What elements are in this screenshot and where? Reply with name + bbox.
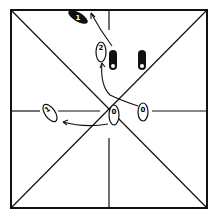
dance-floor-diagram: 0 0 1 2 1 (0, 0, 214, 217)
svg-text:1: 1 (76, 14, 81, 22)
footprint-outline-0-center: 0 (109, 105, 119, 125)
svg-text:2: 2 (99, 44, 104, 52)
footprint-outline-0-right: 0 (138, 103, 148, 121)
footprint-filled-0-a (109, 50, 117, 70)
arrow-head-icon (100, 63, 105, 68)
footprint-outline-2: 2 (96, 42, 106, 62)
svg-text:0: 0 (141, 106, 146, 114)
svg-text:0: 0 (112, 108, 117, 116)
footprint-outline-1-left: 1 (40, 102, 60, 124)
footprint-filled-0-b (138, 50, 146, 70)
step-path-arrow (63, 122, 108, 126)
